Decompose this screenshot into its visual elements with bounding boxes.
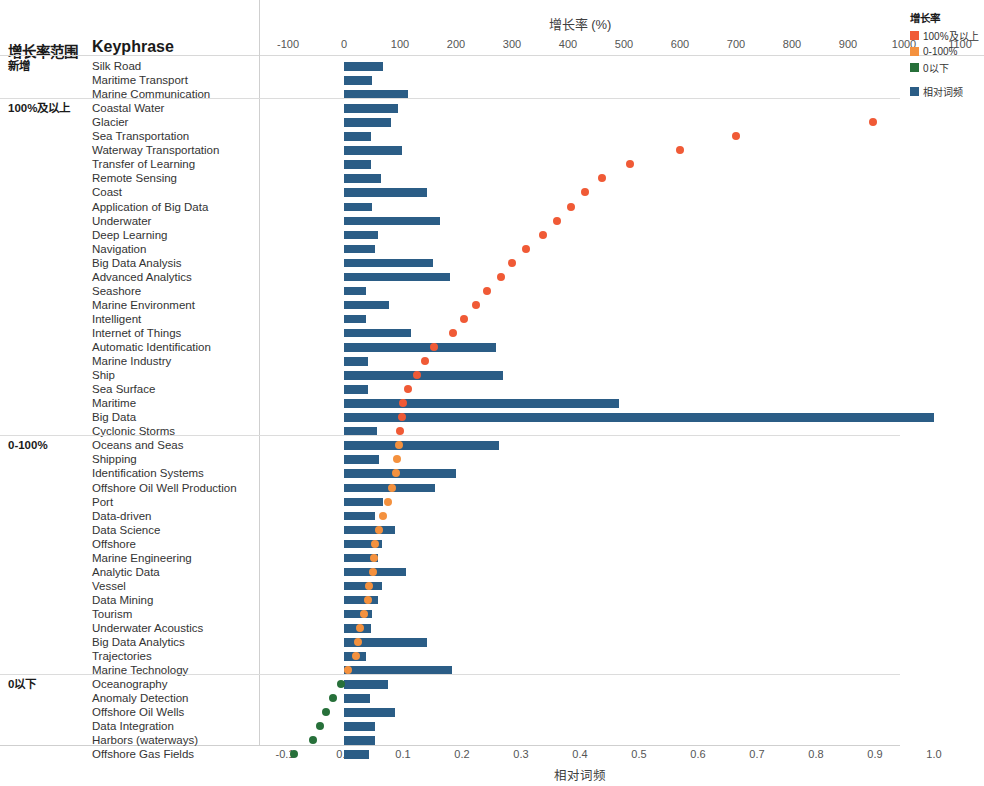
growth-rate-dot — [369, 568, 377, 576]
legend-item-2[interactable]: 0以下 — [910, 60, 984, 75]
growth-rate-dot — [598, 174, 606, 182]
growth-rate-dot — [497, 273, 505, 281]
growth-rate-dot — [581, 188, 589, 196]
legend-item-1[interactable]: 0-100% — [910, 46, 984, 57]
frequency-bar — [344, 217, 440, 226]
frequency-bar — [344, 118, 391, 127]
growth-rate-dot — [356, 624, 364, 632]
row-label: Transfer of Learning — [92, 157, 195, 171]
frequency-bar — [344, 385, 368, 394]
frequency-bar — [344, 315, 366, 324]
legend-label: 0-100% — [923, 46, 957, 57]
chart-row: Underwater — [0, 214, 900, 228]
chart-row: Maritime — [0, 396, 900, 410]
frequency-bar — [344, 469, 456, 478]
bottom-axis-title: 相对词频 — [260, 765, 900, 784]
row-label: Ship — [92, 368, 115, 382]
chart-row: Offshore Gas Fields — [0, 747, 900, 761]
row-label: Intelligent — [92, 312, 141, 326]
chart-row: Big Data Analysis — [0, 256, 900, 270]
legend-label: 100%及以上 — [923, 28, 979, 43]
row-label: Identification Systems — [92, 466, 204, 480]
frequency-bar — [344, 231, 378, 240]
square-swatch-icon — [910, 63, 919, 72]
frequency-bar — [344, 582, 382, 591]
growth-rate-dot — [449, 329, 457, 337]
row-label: Marine Industry — [92, 354, 171, 368]
growth-rate-dot — [309, 736, 317, 744]
frequency-bar — [344, 371, 503, 380]
growth-rate-dot — [404, 385, 412, 393]
chart-row: Tourism — [0, 607, 900, 621]
growth-rate-dot — [364, 596, 372, 604]
growth-rate-dot — [421, 357, 429, 365]
growth-rate-dot — [460, 315, 468, 323]
frequency-bar — [344, 680, 388, 689]
frequency-bar — [344, 441, 499, 450]
row-label: Vessel — [92, 579, 126, 593]
row-label: Big Data Analysis — [92, 256, 182, 270]
chart-row: Advanced Analytics — [0, 270, 900, 284]
growth-rate-dot — [396, 427, 404, 435]
chart-row: Analytic Data — [0, 565, 900, 579]
legend-item-0[interactable]: 100%及以上 — [910, 28, 984, 43]
chart-row: Transfer of Learning — [0, 157, 900, 171]
row-label: Marine Engineering — [92, 551, 192, 565]
row-label: Tourism — [92, 607, 132, 621]
growth-rate-dot — [398, 413, 406, 421]
growth-rate-dot — [567, 203, 575, 211]
chart-row: Sea Surface — [0, 382, 900, 396]
chart-row: Data Mining — [0, 593, 900, 607]
growth-rate-dot — [869, 118, 877, 126]
row-label: Waterway Transportation — [92, 143, 219, 157]
chart-row: Sea Transportation — [0, 129, 900, 143]
growth-rate-dot — [399, 399, 407, 407]
frequency-bar — [344, 399, 619, 408]
frequency-bar — [344, 76, 372, 85]
growth-rate-dot — [370, 554, 378, 562]
row-label: Data Science — [92, 523, 160, 537]
chart-row: Data Integration — [0, 719, 900, 733]
chart-container: 增长率 (%) 增长率范围 Keyphrase -100010020030040… — [0, 0, 984, 786]
chart-row: Application of Big Data — [0, 200, 900, 214]
row-label: Shipping — [92, 452, 137, 466]
square-swatch-icon — [910, 47, 919, 56]
legend-title: 增长率 — [910, 10, 984, 25]
chart-row: Internet of Things — [0, 326, 900, 340]
row-label: Glacier — [92, 115, 128, 129]
growth-rate-dot — [430, 343, 438, 351]
row-label: Offshore Oil Wells — [92, 705, 184, 719]
frequency-bar — [344, 694, 370, 703]
frequency-bar — [344, 736, 375, 745]
growth-rate-dot — [508, 259, 516, 267]
row-label: Data Integration — [92, 719, 174, 733]
row-label: Deep Learning — [92, 228, 167, 242]
growth-rate-dot — [539, 231, 547, 239]
row-label: Underwater — [92, 214, 151, 228]
frequency-bar — [344, 174, 381, 183]
chart-row: Offshore Oil Well Production — [0, 481, 900, 495]
chart-row: Data-driven — [0, 509, 900, 523]
chart-row: Identification Systems — [0, 466, 900, 480]
chart-row: Seashore — [0, 284, 900, 298]
legend-label: 相对词频 — [923, 84, 963, 99]
legend-item-3[interactable]: 相对词频 — [910, 84, 984, 99]
growth-rate-dot — [384, 498, 392, 506]
growth-rate-dot — [354, 638, 362, 646]
chart-row: Deep Learning — [0, 228, 900, 242]
row-label: Marine Environment — [92, 298, 195, 312]
row-label: Offshore Gas Fields — [92, 747, 194, 761]
row-label: Internet of Things — [92, 326, 181, 340]
row-label: Port — [92, 495, 113, 509]
frequency-bar — [344, 455, 379, 464]
frequency-bar — [344, 526, 395, 535]
growth-rate-dot — [676, 146, 684, 154]
row-label: Trajectories — [92, 649, 152, 663]
chart-row: Remote Sensing — [0, 171, 900, 185]
row-label: Coast — [92, 185, 122, 199]
chart-row: Coastal Water — [0, 101, 900, 115]
frequency-bar — [344, 610, 372, 619]
growth-rate-dot — [732, 132, 740, 140]
growth-rate-dot — [316, 722, 324, 730]
chart-row: Navigation — [0, 242, 900, 256]
